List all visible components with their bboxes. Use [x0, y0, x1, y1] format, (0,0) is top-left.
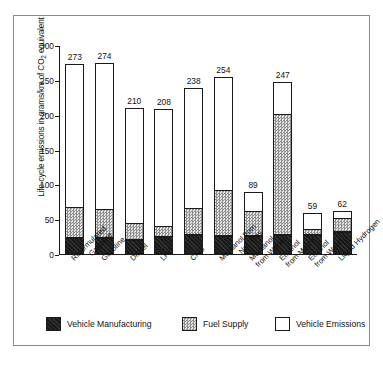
legend-swatch-emissions-icon: [275, 317, 290, 331]
bar-group[interactable]: 238: [184, 46, 203, 255]
y-axis-tick-mark: [55, 116, 59, 117]
bar-segment-emissions[interactable]: [125, 108, 144, 223]
bar-group[interactable]: 62: [333, 46, 352, 255]
legend-swatch-manufacturing-icon: [46, 317, 61, 331]
bar-group[interactable]: 254: [214, 46, 233, 255]
bar-segment-emissions[interactable]: [154, 109, 173, 226]
bar-segment-emissions[interactable]: [65, 64, 84, 208]
legend-item-emissions[interactable]: Vehicle Emissions: [275, 316, 365, 332]
bar-segment-fuel[interactable]: [65, 207, 84, 238]
bar-segment-fuel[interactable]: [214, 190, 233, 236]
legend-label: Fuel Supply: [203, 319, 248, 329]
bar-segment-fuel[interactable]: [125, 223, 144, 240]
bar-segment-fuel[interactable]: [333, 218, 352, 232]
chart-figure: Life-cycle emissions in grams/km of CO2 …: [13, 15, 370, 346]
y-axis-tick-label: 300: [28, 41, 54, 51]
bar-group[interactable]: 59: [303, 46, 322, 255]
bar-segment-emissions[interactable]: [214, 77, 233, 190]
y-axis-tick-mark: [55, 255, 59, 256]
bar-value-label: 62: [321, 199, 364, 209]
y-axis-tick-mark: [55, 185, 59, 186]
chart-legend: Vehicle ManufacturingFuel SupplyVehicle …: [30, 316, 355, 334]
bar-segment-fuel[interactable]: [273, 114, 292, 235]
bar-segment-emissions[interactable]: [273, 82, 292, 114]
bar-segment-emissions[interactable]: [95, 63, 114, 209]
bar-stack[interactable]: [184, 89, 203, 255]
legend-swatch-fuel-icon: [182, 317, 197, 331]
plot-area: 050100150200250300 273274210208238254892…: [59, 46, 357, 255]
y-axis-tick-label: 50: [28, 215, 54, 225]
bar-group[interactable]: 274: [95, 46, 114, 255]
bar-stack[interactable]: [214, 78, 233, 255]
bar-group[interactable]: 273: [65, 46, 84, 255]
legend-item-fuel[interactable]: Fuel Supply: [182, 316, 248, 332]
y-axis-tick-mark: [55, 220, 59, 221]
bar-value-label: 254: [202, 65, 245, 75]
bar-segment-emissions[interactable]: [333, 211, 352, 218]
bar-group[interactable]: 210: [125, 46, 144, 255]
y-axis-tick-mark: [55, 151, 59, 152]
legend-label: Vehicle Emissions: [296, 319, 365, 329]
bar-segment-fuel[interactable]: [154, 226, 173, 237]
bar-value-label: 247: [261, 70, 304, 80]
bar-stack[interactable]: [273, 83, 292, 255]
bar-stack[interactable]: [125, 109, 144, 255]
y-axis-tick-mark: [55, 81, 59, 82]
bar-segment-emissions[interactable]: [184, 88, 203, 208]
bar-segment-emissions[interactable]: [303, 213, 322, 229]
y-axis-tick-label: 100: [28, 180, 54, 190]
legend-item-manufacturing[interactable]: Vehicle Manufacturing: [46, 316, 152, 332]
bar-value-label: 89: [232, 180, 275, 190]
bar-group[interactable]: 247: [273, 46, 292, 255]
bar-segment-emissions[interactable]: [244, 192, 263, 211]
y-axis-tick-mark: [55, 46, 59, 47]
y-axis-tick-label: 250: [28, 76, 54, 86]
y-axis-tick-label: 0: [28, 250, 54, 260]
bar-group[interactable]: 208: [154, 46, 173, 255]
y-axis-title-subscript: 2: [40, 55, 47, 58]
bars-layer: 273274210208238254892475962: [60, 46, 357, 255]
y-axis-title: Life-cycle emissions in grams/km of CO2 …: [37, 7, 51, 207]
y-axis-tick-label: 200: [28, 111, 54, 121]
bar-stack[interactable]: [65, 65, 84, 255]
y-axis-tick-label: 150: [28, 146, 54, 156]
bar-segment-fuel[interactable]: [184, 208, 203, 235]
legend-label: Vehicle Manufacturing: [67, 319, 152, 329]
bar-stack[interactable]: [154, 110, 173, 255]
bar-value-label: 208: [142, 97, 185, 107]
bar-value-label: 274: [83, 51, 126, 61]
bar-value-label: 238: [172, 76, 215, 86]
